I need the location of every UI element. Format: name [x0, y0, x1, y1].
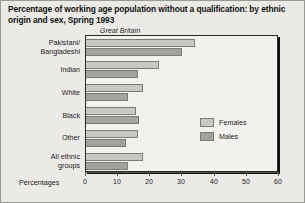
legend-item-males: Males: [200, 132, 270, 141]
x-axis-line: [85, 172, 279, 173]
category-label-all-ethnic-groups: All ethnic groups: [0, 153, 80, 170]
x-axis-caption: Percentages: [19, 178, 59, 187]
chart-title: Percentage of working age population wit…: [8, 4, 299, 25]
x-axis-tick-30: [181, 172, 182, 176]
x-axis-label-10: 10: [113, 178, 121, 185]
x-axis-tick-10: [117, 172, 118, 176]
x-axis-tick-20: [149, 172, 150, 176]
bar-group-indian: [86, 59, 277, 82]
legend-swatch-females-icon: [200, 118, 214, 127]
bar-group-white: [86, 82, 277, 105]
bar-males-black: [86, 116, 139, 124]
category-label-pakistani-bangladeshi: Pakistani/ Bangladeshi: [0, 39, 80, 56]
legend-item-females: Females: [200, 118, 270, 127]
bar-females-indian: [86, 61, 159, 69]
legend-label-males: Males: [219, 132, 238, 141]
bar-males-other: [86, 139, 126, 147]
x-axis-tick-60: [278, 172, 279, 176]
x-axis-tick-50: [246, 172, 247, 176]
legend-swatch-males-icon: [200, 132, 214, 141]
bar-females-other: [86, 130, 138, 138]
bar-males-pakistani-bangladeshi: [86, 48, 182, 56]
category-label-line-2: Bangladeshi: [0, 48, 80, 57]
bar-females-pakistani-bangladeshi: [86, 39, 195, 47]
bar-females-white: [86, 84, 143, 92]
x-axis-label-30: 30: [177, 178, 185, 185]
bar-females-black: [86, 107, 136, 115]
plot-area: Females Males: [85, 35, 278, 172]
category-label-black: Black: [0, 112, 80, 121]
bar-females-all-ethnic-groups: [86, 153, 143, 161]
chart-subtitle: Great Britain: [1, 26, 239, 35]
x-axis-label-50: 50: [242, 178, 250, 185]
x-axis-label-0: 0: [83, 178, 87, 185]
bar-group-pakistani-bangladeshi: [86, 36, 277, 59]
legend-label-females: Females: [219, 118, 247, 127]
category-label-other: Other: [0, 134, 80, 143]
chart-legend: Females Males: [200, 118, 270, 146]
x-axis-tick-40: [214, 172, 215, 176]
bar-males-white: [86, 93, 128, 101]
bar-males-all-ethnic-groups: [86, 162, 128, 170]
x-axis-label-20: 20: [145, 178, 153, 185]
bar-males-indian: [86, 70, 138, 78]
x-axis-label-40: 40: [210, 178, 218, 185]
x-axis-tick-0: [85, 172, 86, 176]
category-label-indian: Indian: [0, 66, 80, 75]
category-label-line-2: groups: [0, 162, 80, 171]
bar-group-all-ethnic-groups: [86, 150, 277, 172]
chart-figure: Percentage of working age population wit…: [0, 0, 305, 203]
category-label-white: White: [0, 89, 80, 98]
x-axis-label-60: 60: [274, 178, 282, 185]
